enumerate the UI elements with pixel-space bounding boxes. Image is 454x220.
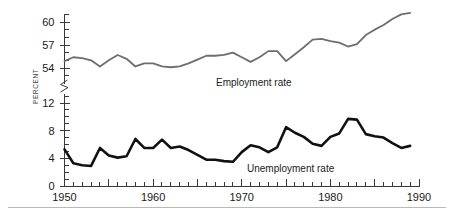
y-tick-label: 4	[48, 152, 54, 164]
x-tick-label: 1980	[318, 191, 342, 203]
y-axis-title: PERCENT	[32, 69, 39, 104]
chart-container: 19501960197019801990 54576004812 PERCENT…	[0, 0, 454, 220]
x-tick-label: 1950	[52, 191, 76, 203]
series-lines	[65, 13, 411, 166]
x-tick-label: 1990	[407, 191, 431, 203]
y-axis-group	[61, 14, 69, 187]
employment-unemployment-line-chart: 19501960197019801990 54576004812 PERCENT…	[0, 0, 454, 220]
axis-break-icon	[61, 80, 69, 92]
x-tick-label: 1970	[230, 191, 254, 203]
series-annotation-label: Employment rate	[216, 77, 292, 88]
y-tick-label: 60	[42, 16, 54, 28]
y-tick-label: 12	[42, 97, 54, 109]
x-axis-ticks	[65, 179, 420, 187]
x-tick-label: 1960	[141, 191, 165, 203]
y-tick-label: 8	[48, 125, 54, 137]
series-line-employment-rate	[65, 13, 411, 67]
x-axis-tick-labels: 19501960197019801990	[52, 191, 431, 203]
y-axis-tick-labels: 54576004812	[42, 16, 54, 192]
y-tick-label: 0	[48, 180, 54, 192]
series-annotation-label: Unemployment rate	[247, 163, 335, 174]
y-tick-label: 54	[42, 62, 54, 74]
series-line-unemployment-rate	[65, 119, 411, 166]
y-tick-label: 57	[42, 39, 54, 51]
